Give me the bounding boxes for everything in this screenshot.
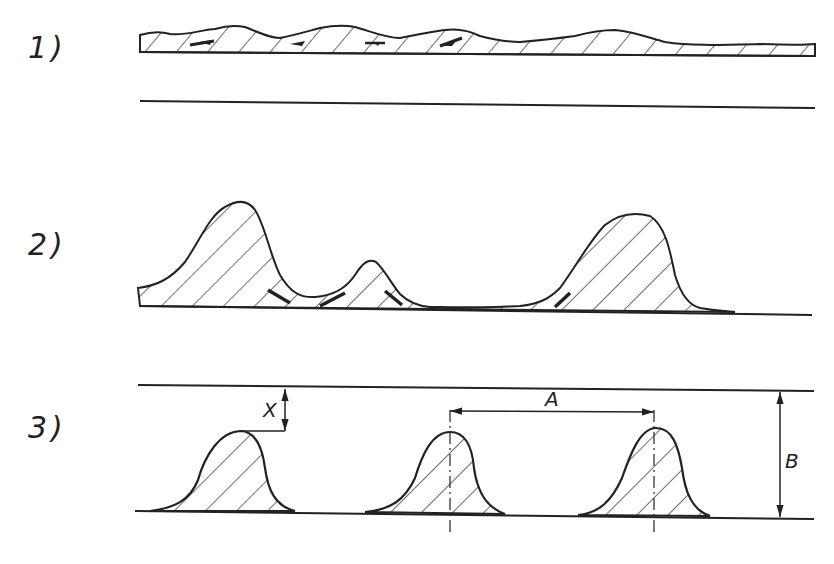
- figure-1-layer: [140, 26, 815, 108]
- dimension-a-label: A: [543, 387, 559, 411]
- figure-2-layer: [138, 202, 812, 315]
- dimension-x-label: X: [262, 398, 278, 422]
- dimension-a-arrow: [450, 411, 654, 412]
- figure-3-layer: X A B: [135, 385, 814, 535]
- technical-drawing: X A B: [0, 0, 834, 564]
- dimension-b-label: B: [785, 449, 799, 473]
